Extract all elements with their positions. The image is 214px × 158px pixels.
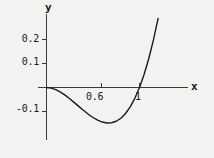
x-tick-label-1: 1 bbox=[135, 91, 141, 102]
y-tick-label-neg0.1: -0.1 bbox=[3, 103, 39, 114]
x-tick-label-0.6: 0.6 bbox=[86, 91, 103, 102]
plot-figure: y x 0.2 0.1 -0.1 0.6 1 bbox=[0, 0, 214, 158]
curve-cubic bbox=[47, 18, 159, 123]
y-axis-label: y bbox=[45, 1, 52, 14]
y-tick-label-0.2: 0.2 bbox=[7, 33, 39, 44]
y-tick-label-0.1: 0.1 bbox=[7, 56, 39, 67]
x-axis-label: x bbox=[191, 80, 198, 93]
plot-canvas bbox=[0, 0, 214, 158]
